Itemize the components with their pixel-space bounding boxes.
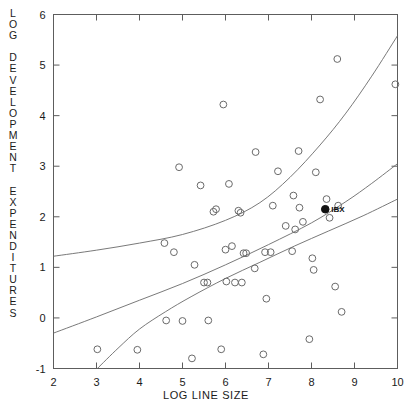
x-tick-label: 8 bbox=[308, 376, 314, 388]
highlighted-point-marker bbox=[321, 205, 329, 213]
x-tick-label: 4 bbox=[136, 376, 142, 388]
data-point-marker bbox=[161, 240, 168, 247]
x-tick-label: 2 bbox=[50, 376, 56, 388]
x-tick-label: 5 bbox=[179, 376, 185, 388]
plot-canvas: 2345678910 -10123456 IBX bbox=[0, 0, 412, 410]
data-point-marker bbox=[269, 202, 276, 209]
data-point-marker bbox=[205, 317, 212, 324]
data-point-marker bbox=[176, 164, 183, 171]
trend-curves bbox=[54, 36, 398, 369]
data-point-marker bbox=[338, 308, 345, 315]
data-point-marker bbox=[223, 278, 230, 285]
data-point-marker bbox=[296, 204, 303, 211]
data-point-marker bbox=[220, 101, 227, 108]
data-point-marker bbox=[189, 355, 196, 362]
plot-frame bbox=[54, 15, 398, 369]
data-point-marker bbox=[229, 243, 236, 250]
data-points bbox=[94, 56, 399, 362]
y-tick-label: 4 bbox=[39, 110, 45, 122]
data-point-marker bbox=[232, 279, 239, 286]
scatter-plot-figure: LOGDEVELOPMENTEXPENDITURES 2345678910 -1… bbox=[0, 0, 412, 410]
data-point-marker bbox=[323, 196, 330, 203]
y-tick-label: 1 bbox=[39, 261, 45, 273]
y-tick-label: 5 bbox=[39, 59, 45, 71]
data-point-marker bbox=[326, 214, 333, 221]
data-point-marker bbox=[260, 351, 267, 358]
y-tick-label: 0 bbox=[39, 312, 45, 324]
data-point-marker bbox=[289, 248, 296, 255]
data-point-marker bbox=[310, 266, 317, 273]
data-point-marker bbox=[263, 295, 270, 302]
data-point-marker bbox=[251, 265, 258, 272]
y-tick-label: 2 bbox=[39, 211, 45, 223]
data-point-marker bbox=[309, 255, 316, 262]
data-point-marker bbox=[317, 96, 324, 103]
data-point-marker bbox=[191, 261, 198, 268]
y-tick-label: -1 bbox=[36, 363, 46, 375]
data-point-marker bbox=[290, 192, 297, 199]
data-point-marker bbox=[94, 346, 101, 353]
x-tick-label: 6 bbox=[222, 376, 228, 388]
data-point-marker bbox=[222, 246, 229, 253]
x-tick-label: 9 bbox=[351, 376, 357, 388]
trend-curve-lower-confidence-band bbox=[97, 199, 397, 368]
data-point-marker bbox=[171, 249, 178, 256]
data-point-marker bbox=[275, 168, 282, 175]
y-tick-label: 6 bbox=[39, 9, 45, 21]
x-tick-label: 10 bbox=[391, 376, 403, 388]
x-tick-label: 3 bbox=[93, 376, 99, 388]
highlighted-data-points: IBX bbox=[321, 205, 345, 214]
x-axis-ticks: 2345678910 bbox=[50, 15, 403, 388]
data-point-marker bbox=[197, 182, 204, 189]
data-point-marker bbox=[334, 56, 341, 63]
data-point-marker bbox=[252, 149, 259, 156]
data-point-marker bbox=[300, 218, 307, 225]
data-point-marker bbox=[226, 181, 233, 188]
x-tick-label: 7 bbox=[265, 376, 271, 388]
data-point-marker bbox=[218, 346, 225, 353]
data-point-marker bbox=[163, 317, 170, 324]
data-point-marker bbox=[312, 169, 319, 176]
data-point-marker bbox=[238, 279, 245, 286]
data-point-marker bbox=[332, 283, 339, 290]
highlighted-point-label: IBX bbox=[331, 205, 345, 214]
data-point-marker bbox=[282, 222, 289, 229]
y-tick-label: 3 bbox=[39, 160, 45, 172]
data-point-marker bbox=[306, 336, 313, 343]
x-axis-title: LOG LINE SIZE bbox=[0, 389, 412, 401]
data-point-marker bbox=[295, 148, 302, 155]
data-point-marker bbox=[134, 346, 141, 353]
data-point-marker bbox=[179, 318, 186, 325]
